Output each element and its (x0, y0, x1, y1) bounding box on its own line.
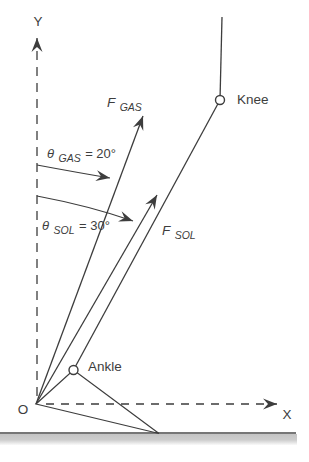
origin-label: O (18, 402, 29, 417)
theta-sol-subscript: SOL (54, 224, 75, 236)
ankle-marker (69, 366, 78, 375)
theta-sol-value: = 30° (79, 218, 110, 233)
theta-gas-arc (37, 165, 110, 178)
theta-sol-symbol: θ (42, 218, 49, 233)
shank-line (74, 100, 221, 370)
y-axis-label: Y (33, 14, 42, 29)
f-gas-symbol: F (107, 95, 116, 110)
ground-shading (0, 434, 297, 445)
ankle-label: Ankle (88, 359, 122, 374)
f-sol-symbol: F (162, 223, 171, 238)
f-gas-label: F GAS (107, 93, 142, 113)
f-sol-label: F SOL (162, 221, 196, 241)
knee-marker (216, 96, 225, 105)
ankle-force-diagram: Y X O Knee Ankle F GAS F SOL θ GAS = 20°… (0, 0, 309, 462)
theta-gas-label: θ GAS = 20° (47, 144, 116, 165)
f-gas-subscript: GAS (120, 101, 142, 113)
knee-label: Knee (237, 92, 269, 107)
diagram-stage: Y X O Knee Ankle F GAS F SOL θ GAS = 20°… (0, 0, 309, 462)
foot-outline (36, 370, 159, 434)
theta-gas-symbol: θ (47, 146, 54, 161)
theta-gas-subscript: GAS (59, 152, 81, 164)
theta-gas-value: = 20° (85, 146, 116, 161)
f-sol-subscript: SOL (175, 229, 196, 241)
thigh-line (220, 17, 222, 100)
x-axis-label: X (282, 407, 291, 422)
